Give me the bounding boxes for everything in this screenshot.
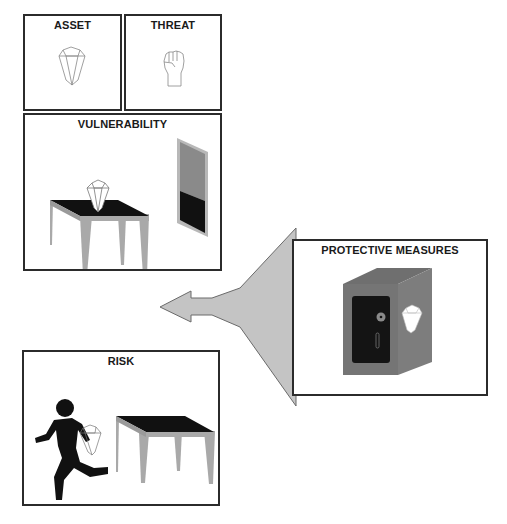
protective-measures-panel: PROTECTIVE MEASURES [292,239,488,396]
empty-table-icon [116,416,215,484]
asset-panel: ASSET [23,14,122,111]
threat-panel: THREAT [124,14,222,111]
running-thief-icon [35,399,108,500]
raised-fist-icon [126,16,220,109]
risk-panel: RISK [22,350,220,506]
gem-icon [25,16,120,109]
open-window-icon [177,138,208,237]
vulnerability-panel: VULNERABILITY [23,113,222,271]
